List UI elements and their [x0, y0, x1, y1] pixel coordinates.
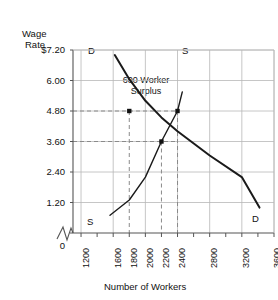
- wage-rate-supply-demand-chart: Wage Rate $7.20 6.00 4.80 3.60 2.40 1.20…: [0, 0, 278, 300]
- curves: [110, 55, 260, 215]
- chart-canvas: [0, 0, 278, 300]
